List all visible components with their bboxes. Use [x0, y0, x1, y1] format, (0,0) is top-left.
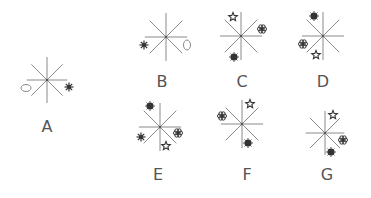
figure-A[interactable]: [21, 55, 74, 103]
figure-label-C: C: [236, 74, 247, 90]
star-lines: [221, 100, 263, 148]
figure-E[interactable]: [137, 101, 183, 151]
figure-B[interactable]: [140, 10, 191, 61]
center-dot: [46, 79, 48, 81]
sun-icon: [326, 147, 336, 157]
flower-icon: [299, 40, 308, 48]
figure-G[interactable]: [306, 111, 348, 157]
star-lines: [27, 57, 67, 103]
sun-icon: [309, 11, 319, 21]
star-lines: [302, 12, 344, 60]
figure-label-E: E: [153, 167, 163, 183]
flower-icon: [218, 112, 227, 120]
sun-icon: [243, 138, 253, 148]
center-dot: [240, 35, 242, 37]
asterisk-icon: [65, 83, 74, 92]
moon-right-icon: [54, 55, 59, 65]
figure-label-B: B: [157, 74, 168, 90]
asterisk-icon: [137, 133, 146, 142]
figure-F[interactable]: [218, 100, 264, 149]
flower-icon: [174, 129, 183, 137]
figure-C[interactable]: [220, 12, 267, 62]
sun-icon: [145, 101, 155, 111]
ellipse-vertical-icon: [184, 40, 191, 50]
star-icon: [246, 100, 255, 108]
asterisk-icon: [140, 41, 149, 50]
sun-icon: [229, 52, 239, 62]
center-dot: [159, 126, 161, 128]
figure-D[interactable]: [299, 11, 345, 60]
flower-icon: [339, 136, 348, 144]
center-dot: [322, 35, 324, 37]
star-lines: [306, 111, 345, 155]
star-icon: [162, 142, 171, 150]
center-dot: [324, 132, 326, 134]
star-lines: [145, 13, 187, 61]
star-icon: [312, 51, 321, 59]
puzzle-canvas: [0, 0, 371, 198]
figure-label-G: G: [321, 167, 333, 183]
ellipse-horizontal-icon: [21, 85, 31, 92]
center-dot: [241, 123, 243, 125]
flower-icon: [258, 25, 267, 33]
center-dot: [165, 36, 167, 38]
figure-label-F: F: [242, 167, 251, 183]
moon-left-icon: [154, 10, 159, 20]
star-lines: [139, 103, 181, 151]
figure-label-A: A: [42, 119, 53, 135]
figure-label-D: D: [317, 74, 329, 90]
star-icon: [329, 111, 338, 119]
star-icon: [229, 13, 238, 21]
star-lines: [220, 12, 262, 60]
